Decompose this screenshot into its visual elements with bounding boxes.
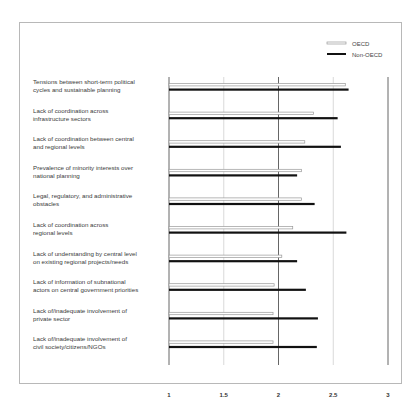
category-label: Lack of coordination across: [33, 221, 108, 228]
category-label: Lack of coordination between central: [33, 135, 134, 142]
grid: [169, 77, 388, 365]
bar-oecd: [169, 312, 273, 314]
bar-non-oecd: [169, 289, 306, 291]
legend-swatch-non-oecd: [327, 53, 346, 55]
bar-oecd: [169, 198, 301, 200]
bar-non-oecd: [169, 260, 297, 262]
bar-oecd: [169, 341, 273, 343]
category-label: Lack of understanding by central level: [33, 250, 137, 257]
category-label: private sector: [33, 315, 70, 322]
category-label: and regional levels: [33, 143, 85, 150]
category-label: on existing regional projects/needs: [33, 258, 128, 265]
bar-oecd: [169, 141, 305, 143]
legend: OECD Non-OECD: [327, 41, 383, 58]
bar-non-oecd: [169, 346, 317, 348]
bars: [169, 84, 349, 349]
x-tick-label: 2: [277, 392, 281, 398]
x-tick-label: 2.5: [329, 392, 338, 398]
x-tick-label: 3: [386, 392, 390, 398]
legend-swatch-oecd: [327, 42, 346, 44]
category-label: civil society/citizens/NGOs: [33, 343, 106, 350]
category-label: Tensions between short-term political: [33, 78, 135, 85]
category-label: Legal, regulatory, and administrative: [33, 192, 133, 199]
bar-chart: Tensions between short-term politicalcyc…: [0, 0, 419, 417]
x-tick-label: 1: [167, 392, 171, 398]
bar-oecd: [169, 112, 314, 114]
category-label: Lack of/inadequate involvement of: [33, 335, 127, 342]
category-label: Lack of coordination across: [33, 107, 108, 114]
category-label: Lack of/inadequate involvement of: [33, 307, 127, 314]
x-tick-label: 1.5: [220, 392, 229, 398]
category-label: obstacles: [33, 200, 59, 207]
bar-non-oecd: [169, 317, 318, 319]
bar-non-oecd: [169, 117, 338, 119]
category-label: Lack of information of subnational: [33, 278, 126, 285]
bar-non-oecd: [169, 203, 315, 205]
category-label: Prevalence of minority interests over: [33, 164, 133, 171]
category-label: infrastructure sectors: [33, 115, 91, 122]
category-label: regional levels: [33, 229, 73, 236]
legend-label-non-oecd: Non-OECD: [352, 52, 383, 58]
legend-label-oecd: OECD: [352, 41, 370, 47]
category-label: cycles and sustainable planning: [33, 86, 121, 93]
category-label: actors on central government priorities: [33, 286, 138, 293]
bar-oecd: [169, 84, 345, 86]
bar-oecd: [169, 255, 282, 257]
bar-non-oecd: [169, 174, 297, 176]
bar-non-oecd: [169, 89, 349, 91]
bar-oecd: [169, 169, 301, 171]
bar-oecd: [169, 284, 274, 286]
category-label: national planning: [33, 172, 80, 179]
category-labels: Tensions between short-term politicalcyc…: [33, 78, 138, 350]
bar-non-oecd: [169, 146, 341, 148]
bar-oecd: [169, 227, 293, 229]
x-tick-labels: 11.522.53: [167, 392, 390, 398]
bar-non-oecd: [169, 232, 346, 234]
